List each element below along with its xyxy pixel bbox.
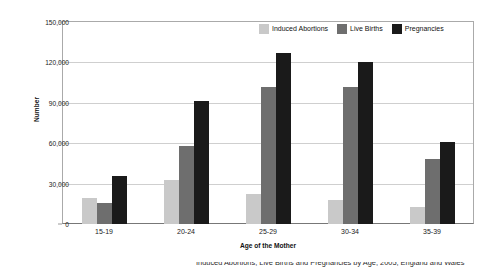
bar-group xyxy=(328,22,373,224)
bar xyxy=(97,203,112,224)
y-tick-mark xyxy=(58,143,62,144)
bar xyxy=(194,101,209,224)
caption-text: Induced Abortions, Live Births and Pregn… xyxy=(196,262,464,267)
bar xyxy=(425,159,440,224)
chart-legend: Induced AbortionsLive BirthsPregnancies xyxy=(259,22,444,35)
y-tick-mark xyxy=(58,183,62,184)
x-axis-title: Age of the Mother xyxy=(62,242,474,249)
x-tick-label: 20-24 xyxy=(177,228,195,235)
x-tick-label: 35-39 xyxy=(423,228,441,235)
bar xyxy=(82,198,97,224)
bar xyxy=(261,87,276,224)
bar xyxy=(276,53,291,224)
legend-label: Live Births xyxy=(350,25,383,32)
x-tick-label: 15-19 xyxy=(95,228,113,235)
bar-group xyxy=(246,22,291,224)
legend-label: Induced Abortions xyxy=(272,25,328,32)
bar-group xyxy=(164,22,209,224)
bar xyxy=(246,194,261,224)
legend-label: Pregnancies xyxy=(405,25,444,32)
legend-swatch xyxy=(337,24,347,34)
bar xyxy=(164,180,179,224)
x-axis-tick-labels: 15-1920-2425-2930-3435-39 xyxy=(63,228,473,235)
y-axis-title: Number xyxy=(33,80,40,140)
legend-item: Pregnancies xyxy=(392,24,444,34)
x-tick-label: 25-29 xyxy=(259,228,277,235)
bar-groups xyxy=(63,22,473,224)
legend-item: Induced Abortions xyxy=(259,24,328,34)
bar xyxy=(328,200,343,224)
bar xyxy=(179,146,194,224)
bar xyxy=(358,62,373,224)
y-tick-mark xyxy=(58,62,62,63)
x-tick-label: 30-34 xyxy=(341,228,359,235)
bar xyxy=(343,87,358,224)
legend-swatch xyxy=(392,24,402,34)
cut-off-caption: Induced Abortions, Live Births and Pregn… xyxy=(0,262,487,269)
legend-item: Live Births xyxy=(337,24,383,34)
bar-chart-figure: Number 030,00060,00090,000120,000150,000… xyxy=(0,0,487,269)
bar xyxy=(410,207,425,225)
bar-group xyxy=(410,22,455,224)
legend-swatch xyxy=(259,24,269,34)
bar-group xyxy=(82,22,127,224)
y-tick-mark xyxy=(58,224,62,225)
y-tick-mark xyxy=(58,22,62,23)
bar xyxy=(112,176,127,224)
bar xyxy=(440,142,455,224)
y-tick-mark xyxy=(58,102,62,103)
